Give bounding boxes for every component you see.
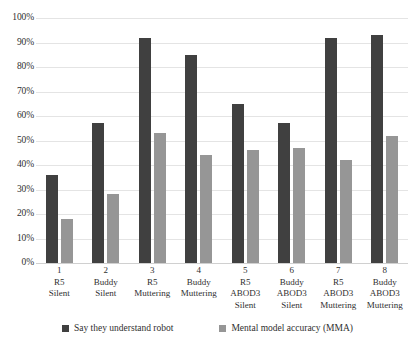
legend-swatch-icon bbox=[62, 325, 69, 332]
legend-label: Mental model accuracy (MMA) bbox=[231, 324, 353, 334]
axis-baseline bbox=[36, 263, 408, 264]
x-axis-tick-label: 5R5ABOD3Silent bbox=[222, 265, 269, 311]
condition-number: 5 bbox=[222, 265, 269, 277]
condition-label-line: ABOD3 bbox=[315, 288, 362, 300]
bar-groups bbox=[36, 18, 408, 263]
chart-legend: Say they understand robotMental model ac… bbox=[0, 324, 415, 334]
bar-mma[interactable] bbox=[340, 160, 352, 263]
x-axis-tick-label: 6BuddyABOD3Silent bbox=[269, 265, 316, 311]
legend-swatch-icon bbox=[219, 325, 226, 332]
x-axis-tick-label: 4BuddyMuttering bbox=[176, 265, 223, 311]
legend-label: Say they understand robot bbox=[74, 324, 173, 334]
condition-label-line: R5 bbox=[129, 277, 176, 289]
condition-label-line: Silent bbox=[222, 300, 269, 312]
y-axis-tick-label: 100% bbox=[0, 13, 34, 23]
condition-number: 3 bbox=[129, 265, 176, 277]
condition-label-line: ABOD3 bbox=[269, 288, 316, 300]
x-axis-tick-label: 8BuddyABOD3Muttering bbox=[362, 265, 409, 311]
y-axis-tick-label: 40% bbox=[0, 160, 34, 170]
x-axis-tick-label: 1R5Silent bbox=[36, 265, 83, 311]
condition-label-line: ABOD3 bbox=[222, 288, 269, 300]
y-axis-tick-label: 0% bbox=[0, 258, 34, 268]
bar-understand[interactable] bbox=[92, 123, 104, 263]
condition-label-line: Muttering bbox=[315, 300, 362, 312]
y-axis-tick-label: 70% bbox=[0, 87, 34, 97]
y-axis-tick-label: 90% bbox=[0, 38, 34, 48]
condition-number: 1 bbox=[36, 265, 83, 277]
condition-number: 6 bbox=[269, 265, 316, 277]
condition-label-line: Muttering bbox=[362, 300, 409, 312]
condition-number: 2 bbox=[83, 265, 130, 277]
y-axis-labels: 0%10%20%30%40%50%60%70%80%90%100% bbox=[0, 0, 34, 346]
bar-understand[interactable] bbox=[325, 38, 337, 263]
condition-label-line: Buddy bbox=[362, 277, 409, 289]
bar-group bbox=[315, 18, 362, 263]
bar-understand[interactable] bbox=[278, 123, 290, 263]
legend-item[interactable]: Say they understand robot bbox=[62, 324, 173, 334]
bar-understand[interactable] bbox=[46, 175, 58, 263]
x-axis-tick-label: 7R5ABOD3Muttering bbox=[315, 265, 362, 311]
bar-understand[interactable] bbox=[371, 35, 383, 263]
bar-group bbox=[362, 18, 409, 263]
condition-label-line: Buddy bbox=[269, 277, 316, 289]
bar-group bbox=[222, 18, 269, 263]
y-axis-tick-label: 20% bbox=[0, 209, 34, 219]
x-axis-tick-label: 2BuddySilent bbox=[83, 265, 130, 311]
condition-label-line: Silent bbox=[83, 288, 130, 300]
bar-mma[interactable] bbox=[247, 150, 259, 263]
condition-label-line: ABOD3 bbox=[362, 288, 409, 300]
condition-label-line: Silent bbox=[269, 300, 316, 312]
bar-group bbox=[129, 18, 176, 263]
condition-label-line: R5 bbox=[36, 277, 83, 289]
bar-mma[interactable] bbox=[386, 136, 398, 263]
condition-number: 8 bbox=[362, 265, 409, 277]
bar-group bbox=[269, 18, 316, 263]
y-axis-tick-label: 80% bbox=[0, 62, 34, 72]
condition-label-line: Muttering bbox=[176, 288, 223, 300]
y-axis-tick-label: 30% bbox=[0, 185, 34, 195]
bar-understand[interactable] bbox=[185, 55, 197, 263]
y-axis-tick-label: 10% bbox=[0, 234, 34, 244]
bar-mma[interactable] bbox=[61, 219, 73, 263]
condition-number: 4 bbox=[176, 265, 223, 277]
bar-group bbox=[176, 18, 223, 263]
condition-label-line: R5 bbox=[222, 277, 269, 289]
bar-understand[interactable] bbox=[232, 104, 244, 263]
condition-number: 7 bbox=[315, 265, 362, 277]
y-axis-tick-label: 50% bbox=[0, 136, 34, 146]
bar-group bbox=[36, 18, 83, 263]
condition-label-line: Silent bbox=[36, 288, 83, 300]
condition-label-line: R5 bbox=[315, 277, 362, 289]
condition-label-line: Buddy bbox=[83, 277, 130, 289]
bar-understand[interactable] bbox=[139, 38, 151, 263]
bar-mma[interactable] bbox=[293, 148, 305, 263]
x-axis-tick-label: 3R5Muttering bbox=[129, 265, 176, 311]
bar-mma[interactable] bbox=[154, 133, 166, 263]
plot-area bbox=[36, 18, 408, 263]
legend-item[interactable]: Mental model accuracy (MMA) bbox=[219, 324, 353, 334]
bar-mma[interactable] bbox=[200, 155, 212, 263]
bar-mma[interactable] bbox=[107, 194, 119, 263]
condition-label-line: Muttering bbox=[129, 288, 176, 300]
y-axis-tick-label: 60% bbox=[0, 111, 34, 121]
condition-label-line: Buddy bbox=[176, 277, 223, 289]
x-axis-labels: 1R5Silent2BuddySilent3R5Muttering4BuddyM… bbox=[36, 265, 408, 311]
bar-chart: 0%10%20%30%40%50%60%70%80%90%100% 1R5Sil… bbox=[0, 0, 415, 346]
bar-group bbox=[83, 18, 130, 263]
